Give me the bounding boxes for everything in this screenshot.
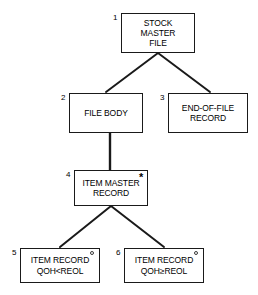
node-4-line-2: RECORD [93,188,129,198]
node-6-line-2: QOH≥REOL [141,266,187,276]
edge-4-to-5 [60,206,111,247]
node-5-line-1: ITEM RECORD [31,255,89,265]
node-item-record-below-reorder[interactable]: ITEM RECORD QOH<REOL [20,248,100,283]
node-6-line-1: ITEM RECORD [135,255,193,265]
node-3-line-1: END-OF-FILE [182,103,234,113]
node-1-line-2: MASTER [141,28,176,38]
edge-4-to-6 [111,206,164,247]
jackson-structure-diagram: 1 STOCK MASTER FILE 2 FILE BODY 3 END-OF… [0,0,258,295]
node-item-master-record[interactable]: ITEM MASTER RECORD [74,170,148,206]
node-index-5: 5 [12,249,16,257]
node-end-of-file-record[interactable]: END-OF-FILE RECORD [168,93,248,133]
edge-1-to-3 [158,53,210,92]
node-index-4: 4 [66,171,70,179]
iteration-asterisk-icon: * [139,172,143,183]
node-4-line-1: ITEM MASTER [83,178,140,188]
node-index-3: 3 [160,94,164,102]
edge-1-to-2 [106,53,158,92]
node-1-line-1: STOCK [144,18,173,28]
node-index-2: 2 [61,94,65,102]
node-3-line-2: RECORD [190,113,226,123]
node-stock-master-file[interactable]: STOCK MASTER FILE [121,13,195,53]
selection-circle-icon [194,251,198,255]
node-5-line-2: QOH<REOL [37,266,84,276]
node-2-line-1: FILE BODY [84,108,128,118]
node-item-record-at-or-above-reorder[interactable]: ITEM RECORD QOH≥REOL [124,248,204,283]
node-1-line-3: FILE [149,38,167,48]
selection-circle-icon [90,251,94,255]
node-index-1: 1 [113,14,117,22]
node-index-6: 6 [116,249,120,257]
node-file-body[interactable]: FILE BODY [69,93,143,133]
